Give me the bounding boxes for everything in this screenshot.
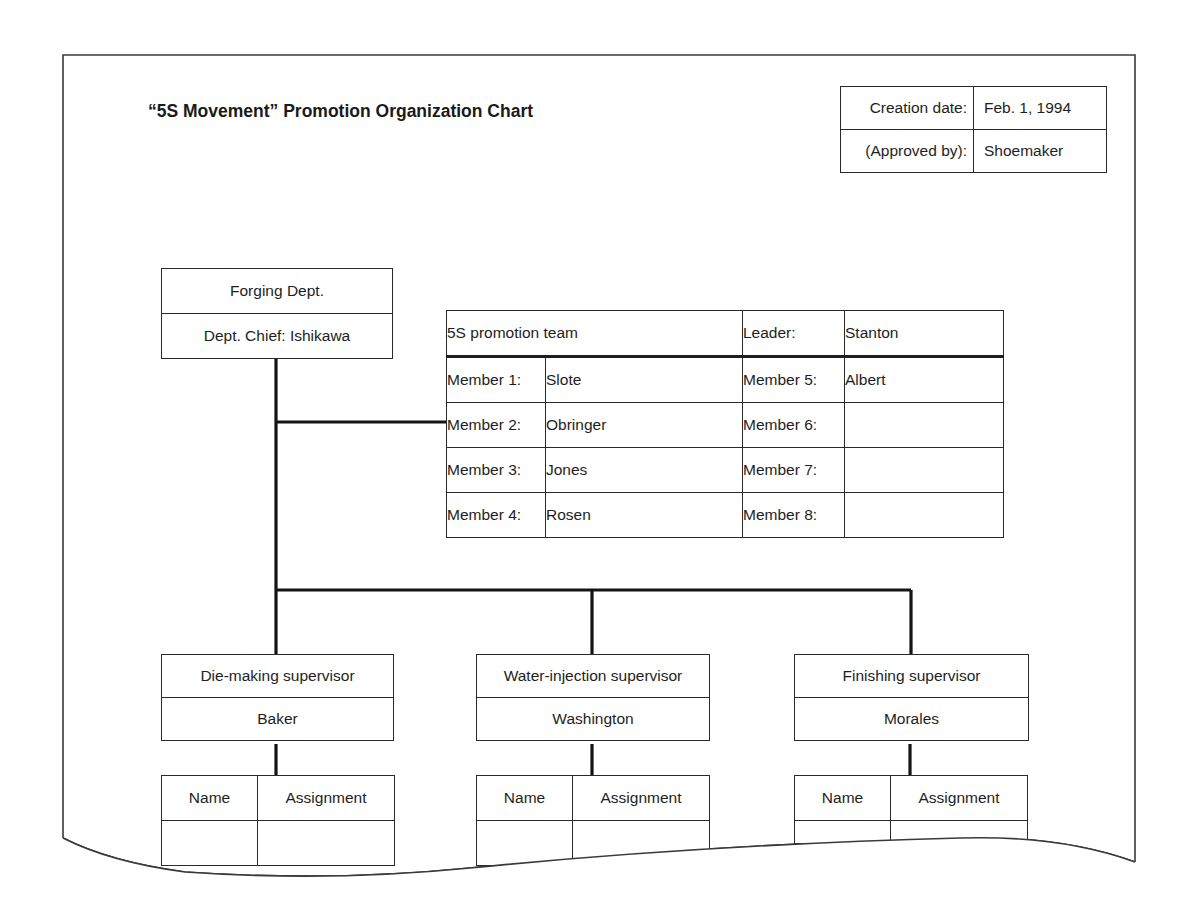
member-name (845, 493, 1004, 538)
supervisor-name: Baker (162, 698, 394, 741)
chart-title: “5S Movement” Promotion Organization Cha… (148, 101, 533, 122)
member-label: Member 6: (743, 403, 845, 448)
department-box: Forging Dept. Dept. Chief: Ishikawa (161, 268, 393, 359)
empty-cell (258, 821, 395, 866)
member-label: Member 8: (743, 493, 845, 538)
supervisor-name: Washington (477, 698, 710, 741)
creation-date-label: Creation date: (841, 87, 974, 130)
creation-date-value: Feb. 1, 1994 (974, 87, 1107, 130)
column-header-assignment: Assignment (573, 776, 710, 821)
supervisor-name: Morales (795, 698, 1029, 741)
meta-table: Creation date: Feb. 1, 1994 (Approved by… (840, 86, 1107, 173)
member-name: Rosen (546, 493, 743, 538)
member-label: Member 5: (743, 357, 845, 403)
member-name (845, 448, 1004, 493)
assignment-table-water-injection: Name Assignment (476, 775, 710, 866)
assignment-table-die-making: Name Assignment (161, 775, 395, 866)
member-name: Jones (546, 448, 743, 493)
member-label: Member 4: (447, 493, 546, 538)
assignment-table-finishing: Name Assignment (794, 775, 1028, 844)
promotion-team-table: 5S promotion team Leader: Stanton Member… (446, 310, 1004, 538)
department-name: Forging Dept. (162, 269, 393, 314)
department-chief: Dept. Chief: Ishikawa (162, 314, 393, 359)
team-title: 5S promotion team (447, 311, 743, 357)
empty-cell (795, 821, 891, 844)
member-label: Member 7: (743, 448, 845, 493)
table-row: Member 2: Obringer Member 6: (447, 403, 1004, 448)
empty-cell (891, 821, 1028, 844)
team-leader-value: Stanton (845, 311, 1004, 357)
member-label: Member 3: (447, 448, 546, 493)
empty-cell (573, 821, 710, 866)
column-header-assignment: Assignment (891, 776, 1028, 821)
team-leader-label: Leader: (743, 311, 845, 357)
approved-by-value: Shoemaker (974, 130, 1107, 173)
member-label: Member 2: (447, 403, 546, 448)
empty-cell (477, 821, 573, 866)
empty-cell (162, 821, 258, 866)
column-header-assignment: Assignment (258, 776, 395, 821)
column-header-name: Name (162, 776, 258, 821)
table-row: Member 1: Slote Member 5: Albert (447, 357, 1004, 403)
table-row: Member 4: Rosen Member 8: (447, 493, 1004, 538)
supervisor-role: Water-injection supervisor (477, 655, 710, 698)
supervisor-box-finishing: Finishing supervisor Morales (794, 654, 1029, 741)
column-header-name: Name (477, 776, 573, 821)
member-name (845, 403, 1004, 448)
supervisor-role: Finishing supervisor (795, 655, 1029, 698)
table-row: Member 3: Jones Member 7: (447, 448, 1004, 493)
supervisor-role: Die-making supervisor (162, 655, 394, 698)
supervisor-box-water-injection: Water-injection supervisor Washington (476, 654, 710, 741)
supervisor-box-die-making: Die-making supervisor Baker (161, 654, 394, 741)
approved-by-label: (Approved by): (841, 130, 974, 173)
member-name: Albert (845, 357, 1004, 403)
member-name: Slote (546, 357, 743, 403)
member-name: Obringer (546, 403, 743, 448)
column-header-name: Name (795, 776, 891, 821)
member-label: Member 1: (447, 357, 546, 403)
